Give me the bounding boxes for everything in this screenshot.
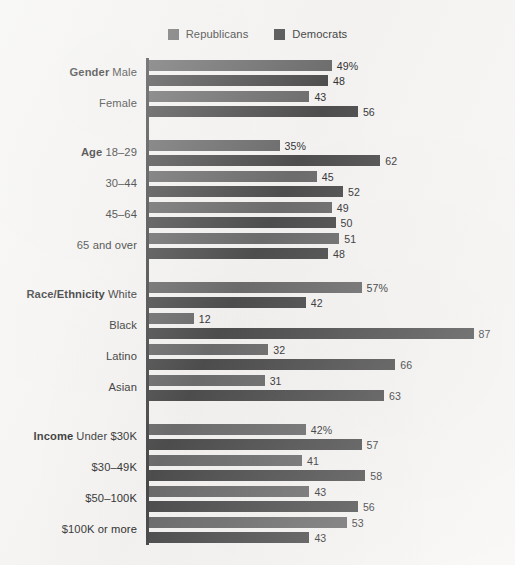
bar-value-republicans: 53 bbox=[352, 517, 364, 529]
legend-swatch-republicans bbox=[168, 29, 179, 40]
bar-row-republicans: 41 bbox=[149, 455, 319, 466]
bar-republicans bbox=[149, 375, 265, 386]
bar-value-democrats: 62 bbox=[385, 155, 397, 167]
bar-row-republicans: 45 bbox=[149, 171, 334, 182]
category-label: $50–100K bbox=[85, 492, 137, 504]
bar-value-republicans: 43 bbox=[314, 486, 326, 498]
bar-value-democrats: 43 bbox=[314, 532, 326, 544]
bar-row-republicans: 31 bbox=[149, 375, 282, 386]
bar-democrats bbox=[149, 75, 328, 86]
chart-legend: Republicans Democrats bbox=[0, 28, 515, 40]
bar-value-democrats: 42 bbox=[311, 297, 323, 309]
bar-value-democrats: 57 bbox=[367, 439, 379, 451]
category-row-label: 65 and over bbox=[77, 239, 137, 251]
category-row-label: Black bbox=[109, 319, 137, 331]
bar-row-republicans: 49% bbox=[149, 60, 358, 71]
bar-democrats bbox=[149, 439, 362, 450]
bar-row-democrats: 56 bbox=[149, 501, 375, 512]
bar-value-republicans: 51 bbox=[344, 233, 356, 245]
bar-row-democrats: 62 bbox=[149, 155, 397, 166]
bar-republicans bbox=[149, 202, 332, 213]
category-row-label: White bbox=[108, 288, 137, 300]
bar-democrats bbox=[149, 359, 395, 370]
bar-value-republicans: 32 bbox=[273, 344, 285, 356]
category-label: IncomeUnder $30K bbox=[34, 430, 138, 442]
bar-value-republicans: 57% bbox=[367, 282, 389, 294]
bar-value-republicans: 45 bbox=[322, 171, 334, 183]
category-row-label: $100K or more bbox=[62, 523, 137, 535]
bar-row-republicans: 49 bbox=[149, 202, 349, 213]
bar-value-republicans: 43 bbox=[314, 91, 326, 103]
section-name: Gender bbox=[70, 66, 110, 78]
bar-democrats bbox=[149, 106, 358, 117]
category-row-label: $50–100K bbox=[85, 492, 137, 504]
bar-democrats bbox=[149, 390, 384, 401]
bar-democrats bbox=[149, 297, 306, 308]
category-row-label: Asian bbox=[109, 381, 138, 393]
bar-row-democrats: 66 bbox=[149, 359, 412, 370]
bar-value-democrats: 52 bbox=[348, 186, 360, 198]
bar-value-democrats: 63 bbox=[389, 390, 401, 402]
bar-row-democrats: 58 bbox=[149, 470, 382, 481]
category-label: Latino bbox=[106, 350, 137, 362]
bar-value-democrats: 56 bbox=[363, 106, 375, 118]
bar-row-republicans: 35% bbox=[149, 140, 306, 151]
category-row-label: 18–29 bbox=[105, 146, 137, 158]
bar-democrats bbox=[149, 532, 309, 543]
bar-republicans bbox=[149, 91, 309, 102]
legend-item-democrats: Democrats bbox=[274, 28, 347, 40]
bar-value-republicans: 31 bbox=[270, 375, 282, 387]
legend-swatch-democrats bbox=[274, 29, 285, 40]
category-label: Black bbox=[109, 319, 137, 331]
bar-republicans bbox=[149, 171, 317, 182]
bar-republicans bbox=[149, 486, 309, 497]
bar-value-republicans: 12 bbox=[199, 313, 211, 325]
bar-value-democrats: 48 bbox=[333, 248, 345, 260]
bar-democrats bbox=[149, 328, 474, 339]
legend-label-republicans: Republicans bbox=[186, 28, 249, 40]
category-label: Race/EthnicityWhite bbox=[26, 288, 137, 300]
bar-row-republicans: 43 bbox=[149, 486, 326, 497]
section-name: Income bbox=[34, 430, 74, 442]
bar-row-republicans: 57% bbox=[149, 282, 388, 293]
bar-row-democrats: 63 bbox=[149, 390, 401, 401]
category-row-label: Under $30K bbox=[76, 430, 137, 442]
category-label: Age18–29 bbox=[81, 146, 137, 158]
category-row-label: 45–64 bbox=[105, 208, 137, 220]
category-label: 30–44 bbox=[105, 177, 137, 189]
bar-democrats bbox=[149, 217, 336, 228]
category-label: $30–49K bbox=[92, 461, 138, 473]
bar-value-democrats: 50 bbox=[341, 217, 353, 229]
bar-row-republicans: 32 bbox=[149, 344, 285, 355]
bar-row-republicans: 12 bbox=[149, 313, 211, 324]
category-row-label: Female bbox=[99, 97, 137, 109]
bar-row-republicans: 43 bbox=[149, 91, 326, 102]
bar-republicans bbox=[149, 140, 280, 151]
category-label: 65 and over bbox=[77, 239, 137, 251]
bar-value-democrats: 56 bbox=[363, 501, 375, 513]
bar-democrats bbox=[149, 248, 328, 259]
bar-row-democrats: 48 bbox=[149, 248, 345, 259]
bar-row-democrats: 43 bbox=[149, 532, 326, 543]
category-row-label: $30–49K bbox=[92, 461, 138, 473]
bar-republicans bbox=[149, 282, 362, 293]
category-row-label: 30–44 bbox=[105, 177, 137, 189]
bar-value-republicans: 42% bbox=[311, 424, 333, 436]
bar-republicans bbox=[149, 424, 306, 435]
section-name: Age bbox=[81, 146, 102, 158]
bar-republicans bbox=[149, 313, 194, 324]
bar-republicans bbox=[149, 233, 339, 244]
category-label: Female bbox=[99, 97, 137, 109]
category-label-column: GenderMaleFemaleAge18–2930–4445–6465 and… bbox=[0, 56, 143, 556]
bar-democrats bbox=[149, 470, 365, 481]
bar-row-democrats: 42 bbox=[149, 297, 323, 308]
bar-row-democrats: 56 bbox=[149, 106, 375, 117]
category-label: GenderMale bbox=[70, 66, 137, 78]
bar-row-democrats: 48 bbox=[149, 75, 345, 86]
bar-row-democrats: 57 bbox=[149, 439, 379, 450]
bar-republicans bbox=[149, 60, 332, 71]
section-name: Race/Ethnicity bbox=[26, 288, 105, 300]
bar-republicans bbox=[149, 344, 268, 355]
legend-label-democrats: Democrats bbox=[292, 28, 347, 40]
bar-value-democrats: 58 bbox=[370, 470, 382, 482]
